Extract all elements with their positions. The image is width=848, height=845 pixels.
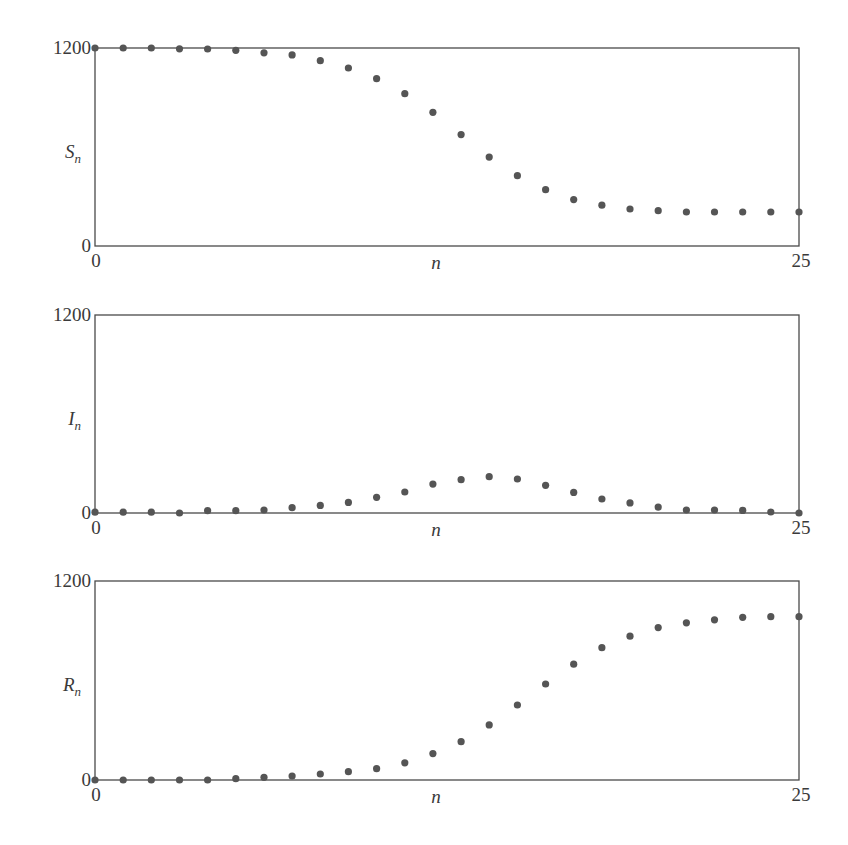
data-point <box>655 624 662 631</box>
data-point <box>91 509 98 516</box>
data-point <box>598 495 605 502</box>
data-point <box>345 499 352 506</box>
data-point <box>767 508 774 515</box>
susceptible-panel: 12000025nSn <box>53 37 811 273</box>
data-point <box>767 613 774 620</box>
data-point <box>232 507 239 514</box>
data-point <box>683 619 690 626</box>
data-point <box>429 481 436 488</box>
data-point <box>570 489 577 496</box>
data-point <box>739 507 746 514</box>
data-point <box>514 172 521 179</box>
data-point <box>655 207 662 214</box>
data-point <box>598 202 605 209</box>
data-point <box>739 614 746 621</box>
data-point <box>767 208 774 215</box>
y-tick-zero: 0 <box>82 769 92 790</box>
data-point <box>317 770 324 777</box>
infected-panel: 12000025nIn <box>53 304 811 540</box>
data-point <box>655 504 662 511</box>
data-point <box>486 721 493 728</box>
data-point <box>260 49 267 56</box>
data-point <box>148 509 155 516</box>
plot-frame <box>95 48 799 246</box>
data-point <box>148 44 155 51</box>
data-point <box>683 208 690 215</box>
plot-frame <box>95 315 799 513</box>
data-point <box>401 90 408 97</box>
data-point <box>176 45 183 52</box>
data-point <box>120 44 127 51</box>
data-point <box>289 504 296 511</box>
data-point <box>373 75 380 82</box>
data-point <box>345 64 352 71</box>
data-point <box>204 776 211 783</box>
y-tick-max: 1200 <box>53 570 91 591</box>
data-point <box>401 759 408 766</box>
data-point <box>91 44 98 51</box>
y-tick-zero: 0 <box>82 235 92 256</box>
data-point <box>795 509 802 516</box>
data-point <box>458 738 465 745</box>
data-point <box>458 476 465 483</box>
data-point <box>429 109 436 116</box>
data-point <box>570 661 577 668</box>
data-point <box>626 205 633 212</box>
data-point <box>401 488 408 495</box>
y-axis-label: Sn <box>65 141 81 166</box>
data-point <box>542 186 549 193</box>
y-axis-label: Rn <box>62 674 81 699</box>
x-tick-zero: 0 <box>91 517 101 538</box>
data-point <box>176 509 183 516</box>
data-point <box>486 154 493 161</box>
data-point <box>683 506 690 513</box>
data-point <box>514 701 521 708</box>
data-point <box>711 208 718 215</box>
y-tick-max: 1200 <box>53 304 91 325</box>
data-point <box>373 765 380 772</box>
data-point <box>373 494 380 501</box>
data-point <box>120 776 127 783</box>
x-tick-zero: 0 <box>91 784 101 805</box>
plot-frame <box>95 581 799 780</box>
data-point <box>429 750 436 757</box>
data-point <box>598 644 605 651</box>
x-tick-zero: 0 <box>91 250 101 271</box>
data-point <box>739 208 746 215</box>
data-point <box>542 482 549 489</box>
data-point <box>317 57 324 64</box>
data-point <box>289 51 296 58</box>
data-point <box>289 772 296 779</box>
data-point <box>232 775 239 782</box>
data-point <box>795 613 802 620</box>
x-tick-max: 25 <box>792 250 811 271</box>
data-point <box>542 680 549 687</box>
data-point <box>486 473 493 480</box>
data-point <box>570 196 577 203</box>
data-point <box>176 776 183 783</box>
data-point <box>260 506 267 513</box>
x-tick-max: 25 <box>792 517 811 538</box>
x-tick-max: 25 <box>792 784 811 805</box>
data-point <box>626 499 633 506</box>
data-point <box>711 506 718 513</box>
x-axis-label: n <box>431 252 441 273</box>
data-point <box>317 502 324 509</box>
x-axis-label: n <box>431 519 441 540</box>
x-axis-label: n <box>431 786 441 807</box>
data-point <box>458 131 465 138</box>
data-point <box>345 768 352 775</box>
data-point <box>514 475 521 482</box>
data-point <box>795 208 802 215</box>
data-point <box>91 776 98 783</box>
data-point <box>626 633 633 640</box>
y-axis-label: In <box>67 408 81 433</box>
data-point <box>260 774 267 781</box>
data-point <box>120 509 127 516</box>
recovered-panel: 12000025nRn <box>53 570 811 807</box>
y-tick-zero: 0 <box>82 502 92 523</box>
data-point <box>204 45 211 52</box>
data-point <box>232 47 239 54</box>
y-tick-max: 1200 <box>53 37 91 58</box>
sir-model-figure: 12000025nSn12000025nIn12000025nRn <box>0 0 848 845</box>
